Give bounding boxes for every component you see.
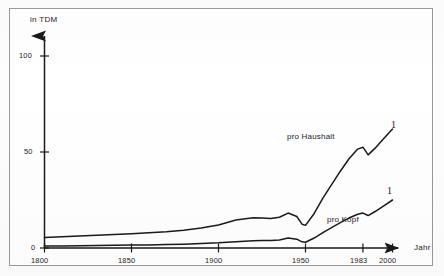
end-marker-label-pro-kopf: 1 <box>387 186 392 196</box>
x-tick-label-1900: 1900 <box>205 257 223 265</box>
line-chart-canvas <box>0 0 444 276</box>
x-tick-label-1850: 1850 <box>118 257 136 265</box>
end-marker-label-pro-haushalt: 1 <box>391 120 396 130</box>
x-tick-label-1950: 1950 <box>292 257 310 265</box>
y-tick-label-50: 50 <box>24 148 33 156</box>
x-axis-title: Jahr <box>414 244 431 252</box>
y-axis-title: in TDM <box>30 16 57 24</box>
series-label-pro-haushalt: pro Haushalt <box>287 133 335 141</box>
y-tick-label-0: 0 <box>31 244 35 252</box>
x-tick-label-2000: 2000 <box>379 257 397 265</box>
chart-page: in TDM Jahr 100 50 0 1800 1850 1900 1950… <box>0 0 444 276</box>
series-label-pro-kopf: pro Kopf <box>327 216 359 224</box>
y-tick-label-100: 100 <box>19 52 32 60</box>
x-tick-label-1983: 1983 <box>350 257 368 265</box>
x-tick-label-1800: 1800 <box>31 257 49 265</box>
